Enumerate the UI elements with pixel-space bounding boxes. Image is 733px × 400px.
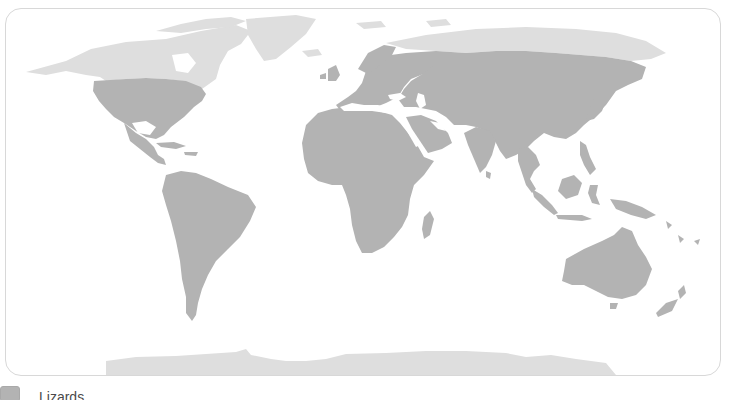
range-new-guinea (610, 199, 656, 219)
range-pacific-islands (666, 221, 700, 245)
range-madagascar (422, 211, 434, 239)
legend-label-lizards: Lizards (39, 390, 84, 400)
range-india (464, 127, 496, 173)
range-sulawesi (588, 185, 600, 205)
region-arctic-eurasia-islands (356, 19, 451, 29)
range-british-isles (320, 65, 340, 81)
range-tasmania (610, 303, 618, 309)
range-southeast-asia (518, 147, 540, 193)
page: Lizards (0, 0, 733, 400)
range-philippines (580, 141, 596, 175)
world-map-svg (6, 9, 720, 375)
range-south-america (162, 171, 256, 321)
range-new-zealand (656, 285, 686, 317)
range-borneo (558, 175, 582, 199)
range-australia (562, 227, 652, 299)
lizard-range (93, 45, 700, 321)
legend-swatch-lizards (0, 386, 20, 400)
range-caribbean (156, 142, 198, 156)
region-iceland (302, 49, 322, 57)
range-sri-lanka (486, 171, 491, 179)
region-antarctica (106, 349, 616, 375)
world-map (5, 8, 721, 376)
map-legend: Lizards (0, 386, 84, 400)
